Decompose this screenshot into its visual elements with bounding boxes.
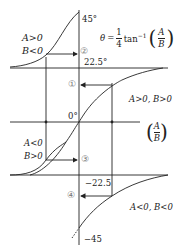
formula-eq: = <box>107 34 114 43</box>
coef-denominator: 4 <box>116 40 121 49</box>
formula-func: tan−1 <box>124 33 147 43</box>
intersection-dot <box>111 121 114 124</box>
paren-close: ) <box>160 122 168 142</box>
formula-theta: θ <box>100 34 105 43</box>
tick-label-22-5: 22.5° <box>84 58 107 67</box>
curve-bottom-dotted <box>72 228 79 238</box>
arg-denominator: B <box>158 40 164 49</box>
region-label-b-neg: B<0 <box>22 46 43 56</box>
paren-open: ( <box>149 28 157 48</box>
region-label-a-neg: A<0 <box>24 139 43 148</box>
arg-numerator: A <box>158 28 164 37</box>
region-label-a-pos-b-pos: A>0, B>0 <box>129 95 172 104</box>
formula-coefficient: 1 4 <box>116 28 121 48</box>
curve-top-right <box>122 68 163 80</box>
region-label-b-pos: B>0 <box>24 152 43 161</box>
tick-label-neg-45: −45 <box>84 235 102 244</box>
formula: θ = 1 4 tan−1 ( A B ) <box>100 28 174 48</box>
intersection-dot <box>45 121 48 124</box>
curve-top-left <box>10 12 79 67</box>
tick-label-zero: 0° <box>68 112 78 121</box>
marker-4: ④ <box>67 191 75 200</box>
curve-middle <box>30 80 122 175</box>
coef-numerator: 1 <box>116 28 121 37</box>
tick-label-neg-22-5: −22.5 <box>85 179 111 188</box>
formula-arg: A B <box>158 28 164 48</box>
paren-open: ( <box>146 122 154 142</box>
marker-3: ③ <box>81 155 89 164</box>
paren-close: ) <box>167 28 175 48</box>
axis-label-a-over-b: ( A B ) <box>146 122 168 142</box>
marker-2: ② <box>80 47 88 56</box>
region-label-a-neg-b-neg: A<0, B<0 <box>130 203 173 212</box>
region-label-a-pos: A>0 <box>22 33 43 43</box>
marker-1: ① <box>68 80 76 89</box>
tick-label-45: 45° <box>82 15 97 24</box>
